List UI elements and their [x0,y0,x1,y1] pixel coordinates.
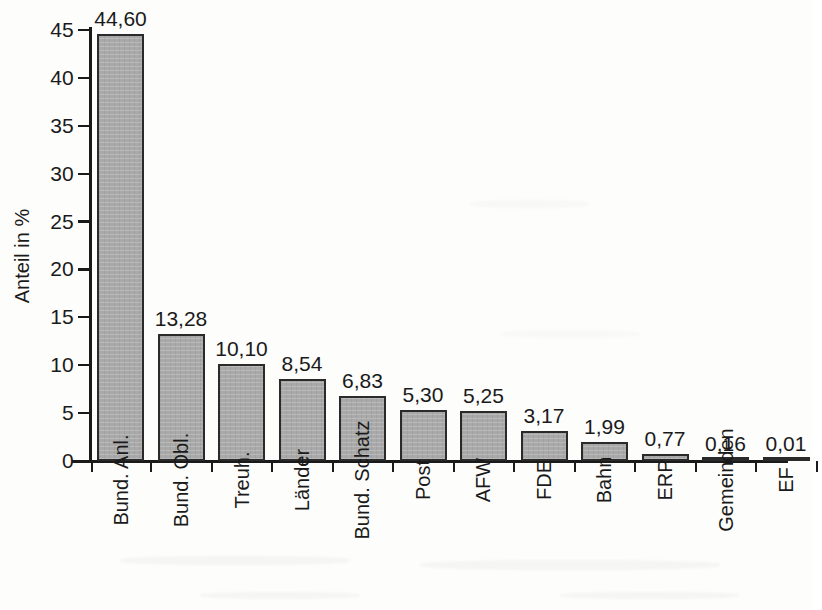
y-axis-tick [78,173,89,175]
x-axis-label: EF [766,470,806,510]
y-axis-tick [78,316,89,318]
x-axis-label-text: Treuh. [232,451,252,508]
bar-value-label: 13,28 [146,308,217,329]
y-axis-tick-label: 40 [0,67,74,88]
bar-value-label: 44,60 [85,8,156,29]
x-axis-label-text: Bund. Obl. [171,433,191,528]
y-axis-tick-label: 0 [0,450,74,471]
y-axis-tick-label: 25 [0,211,74,232]
y-axis-tick [78,412,89,414]
bar [763,457,810,461]
x-axis-label-text: EF [776,467,796,493]
bar-value-label: 0,01 [751,433,822,454]
y-axis-tick [78,77,89,79]
x-axis-label: AFW [458,470,509,521]
x-axis-label-text: Gemeinden [716,428,736,531]
x-axis-label: Post [392,470,454,532]
bar-value-label: 5,25 [448,385,519,406]
x-axis-label-text: Post [413,460,433,500]
x-axis-tick [816,461,818,472]
x-axis-label: FDE [519,470,570,521]
y-axis-tick-label: 20 [0,258,74,279]
bar [521,431,568,461]
y-axis-tick [78,268,89,270]
y-axis-tick-label: 30 [0,163,74,184]
y-axis-tick-label: 45 [0,19,74,40]
y-axis-tick [78,460,89,462]
bar [460,411,507,461]
y-axis-tick [78,29,89,31]
bar [218,364,265,461]
y-axis-tick [78,125,89,127]
x-axis-label-text: FDE [534,460,554,500]
y-axis-tick [78,364,89,366]
x-axis-label-text: Bund. Schatz [353,421,373,540]
y-axis-tick [78,220,89,222]
y-axis-tick-label: 35 [0,115,74,136]
x-axis-label: Bahn [574,470,636,532]
bar [400,410,447,461]
x-axis-label-text: Bahn [595,457,615,504]
y-axis-title: Anteil in % [8,186,36,326]
y-axis-tick-label: 5 [0,402,74,423]
y-axis-tick-label: 15 [0,306,74,327]
y-axis-tick-label: 10 [0,354,74,375]
x-axis-label-text: AFW [474,458,494,502]
bar [97,34,144,461]
x-axis-tick [513,461,515,472]
